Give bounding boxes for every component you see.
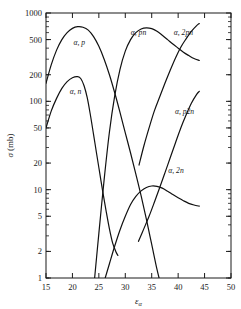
y-axis-tick-labels: 1251020501002005001000 (25, 8, 42, 283)
x-tick-label: 45 (200, 282, 209, 292)
y-tick-label: 100 (29, 96, 42, 106)
curve-label-pn: α, pn (131, 28, 147, 37)
x-axis-tick-labels: 1520253035404550 (42, 282, 236, 292)
curve-label-2pn: α, 2pn (174, 28, 193, 37)
series-curve-pn (95, 28, 200, 278)
cross-section-log-plot: 1251020501002005001000 1520253035404550 … (0, 0, 241, 309)
x-tick-label: 50 (227, 282, 236, 292)
x-axis-ticks (46, 13, 231, 278)
x-tick-label: 30 (121, 282, 130, 292)
curve-label-p2n: α, p2n (175, 107, 194, 116)
x-tick-label: 20 (68, 282, 77, 292)
y-tick-label: 200 (29, 70, 42, 80)
axis-frame (46, 13, 231, 278)
x-tick-label: 35 (147, 282, 156, 292)
x-tick-label: 15 (42, 282, 51, 292)
data-series-curves (46, 24, 199, 285)
y-tick-label: 2 (38, 246, 42, 256)
y-tick-label: 20 (34, 158, 43, 168)
plot-frame (46, 13, 231, 278)
x-tick-label: 25 (95, 282, 104, 292)
curve-label-n: α, n (70, 87, 82, 96)
x-tick-label: 40 (174, 282, 183, 292)
series-curve-n (46, 77, 118, 256)
series-curve-p (46, 27, 161, 285)
y-axis-title: σ (mb) (5, 133, 15, 157)
y-tick-label: 500 (29, 35, 42, 45)
series-curve-2n (105, 186, 199, 278)
y-tick-label: 10 (34, 185, 43, 195)
x-axis-title: εα (135, 296, 143, 307)
curve-label-p: α, p (74, 38, 86, 47)
y-tick-label: 50 (34, 123, 43, 133)
y-tick-label: 1000 (25, 8, 42, 18)
y-tick-label: 5 (38, 211, 42, 221)
y-axis-ticks (46, 13, 231, 278)
curve-label-2n: α, 2n (168, 166, 184, 175)
chart-container: 1251020501002005001000 1520253035404550 … (0, 0, 241, 309)
series-curve-2pn (139, 24, 199, 166)
